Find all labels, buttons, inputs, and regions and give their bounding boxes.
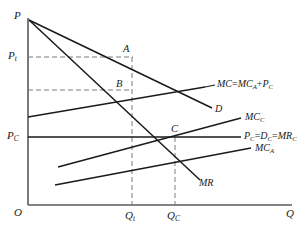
curve-label-mc-a: MCA <box>255 143 274 153</box>
curve-label-marginal-revenue: MR <box>199 178 213 188</box>
curve-marginal-revenue <box>29 20 200 180</box>
pc-line-mr: MR <box>278 130 292 141</box>
y-tick-pt-sub: t <box>15 54 17 63</box>
pc-line-p-sub: C <box>250 135 255 142</box>
y-tick-pc-base: P <box>7 129 14 141</box>
curve-label-mc-total: MC=MCA+PC <box>217 79 273 89</box>
curve-mc-a <box>55 148 251 185</box>
y-tick-pt: Pt <box>8 50 17 61</box>
pc-line-d: D <box>260 130 267 141</box>
mc-a-sub: A <box>270 147 274 154</box>
leader-mc-total <box>205 85 215 87</box>
x-tick-qc: QC <box>167 210 180 221</box>
mc-a-base: MC <box>255 142 270 153</box>
annotation-point-c: C <box>171 124 178 135</box>
mc-total-prefix: MC <box>217 78 232 89</box>
curve-mc-total <box>28 87 205 117</box>
mc-c-base: MC <box>245 111 260 122</box>
mc-total-mc-sub: A <box>253 83 257 90</box>
x-axis-label: Q <box>286 208 294 219</box>
y-axis-label: P <box>14 10 21 21</box>
x-tick-qt-base: Q <box>125 209 133 221</box>
mc-total-mc: MC <box>238 78 253 89</box>
curve-label-mc-c: MCC <box>245 112 265 122</box>
y-tick-pt-base: P <box>8 49 15 61</box>
mc-c-sub: C <box>260 116 265 123</box>
x-tick-qt-sub: t <box>133 214 135 223</box>
diagram-canvas: P Q O Pt PC Qt QC A B C MC=MCA+PC D MCC … <box>0 0 307 232</box>
mc-total-p-sub: C <box>269 83 274 90</box>
y-tick-pc: PC <box>7 130 19 141</box>
x-tick-qc-sub: C <box>175 214 180 223</box>
curve-label-world-price: PC=DC=MRC <box>244 131 297 141</box>
curve-mc-c <box>58 118 241 167</box>
x-tick-qc-base: Q <box>167 209 175 221</box>
mc-total-p: P <box>262 78 268 89</box>
annotation-point-b: B <box>116 79 122 90</box>
curve-label-demand: D <box>215 104 222 114</box>
curve-demand <box>29 20 212 108</box>
annotation-point-a: A <box>123 44 129 55</box>
x-tick-qt: Qt <box>125 210 135 221</box>
origin-label: O <box>14 207 22 218</box>
pc-line-mr-sub: C <box>292 135 297 142</box>
y-tick-pc-sub: C <box>14 134 19 143</box>
pc-line-d-sub: C <box>268 135 273 142</box>
